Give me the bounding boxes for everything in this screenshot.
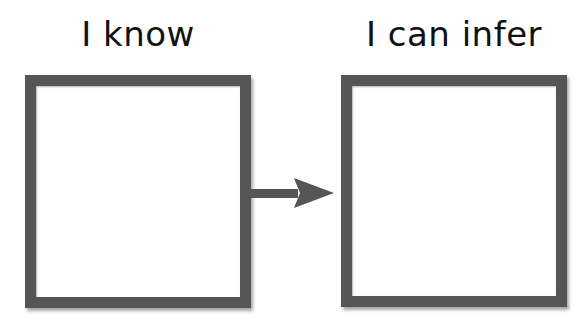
- i-can-infer-box[interactable]: [341, 75, 567, 307]
- i-can-infer-label: I can infer: [341, 14, 567, 54]
- i-know-box[interactable]: [25, 75, 251, 308]
- arrow-right-icon: [248, 174, 338, 214]
- i-know-label: I know: [25, 14, 251, 54]
